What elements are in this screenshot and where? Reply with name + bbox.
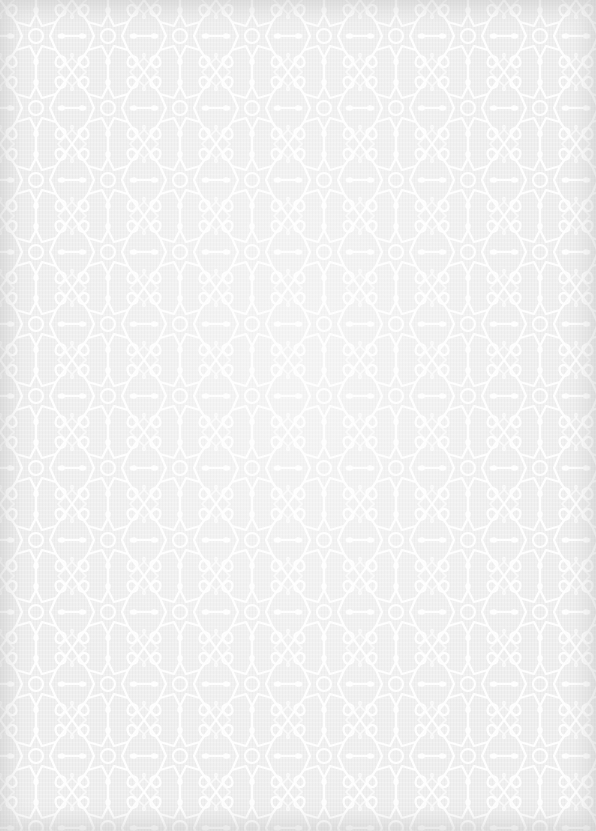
geometric-lattice-pattern [0,0,596,831]
patterned-background [0,0,596,831]
